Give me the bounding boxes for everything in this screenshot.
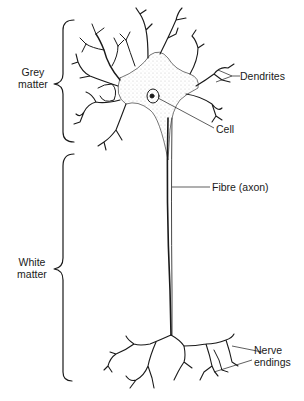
grey-matter-label: Grey matter bbox=[14, 66, 52, 90]
fibre-label: Fibre (axon) bbox=[212, 181, 269, 193]
cell-label: Cell bbox=[216, 123, 234, 135]
axon bbox=[167, 118, 171, 335]
neuron-diagram bbox=[0, 0, 304, 401]
grey-matter-brace bbox=[54, 20, 74, 142]
nerve-endings-line1: Nerve bbox=[254, 344, 291, 356]
dendrites-label: Dendrites bbox=[240, 70, 285, 82]
nerve-endings-line2: endings bbox=[254, 356, 291, 368]
white-matter-line2: matter bbox=[12, 268, 52, 280]
nerve-endings bbox=[104, 335, 171, 372]
white-matter-brace bbox=[54, 154, 74, 381]
grey-matter-line1: Grey bbox=[14, 66, 52, 78]
grey-matter-line2: matter bbox=[14, 78, 52, 90]
white-matter-label: White matter bbox=[12, 256, 52, 280]
dendrites-leader bbox=[216, 70, 240, 82]
nerve-endings-label: Nerve endings bbox=[254, 344, 291, 368]
cell-body bbox=[118, 52, 198, 160]
white-matter-line1: White bbox=[12, 256, 52, 268]
